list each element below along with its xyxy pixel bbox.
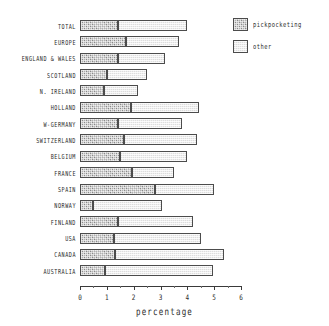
bar-segment-other bbox=[126, 36, 180, 47]
bar-row bbox=[0, 53, 329, 64]
bar-row bbox=[0, 249, 329, 260]
bar-segment-pickpocketing bbox=[80, 151, 120, 162]
bar-row bbox=[0, 134, 329, 145]
legend-swatch-pickpocketing bbox=[233, 18, 248, 31]
bar-segment-pickpocketing bbox=[80, 102, 131, 113]
bar-segment-pickpocketing bbox=[80, 265, 105, 276]
bar-row bbox=[0, 233, 329, 244]
bar-segment-pickpocketing bbox=[80, 233, 114, 244]
x-tick-minor bbox=[120, 286, 121, 288]
bar-segment-pickpocketing bbox=[80, 184, 155, 195]
bar-segment-pickpocketing bbox=[80, 20, 118, 31]
bar-segment-other bbox=[93, 200, 161, 211]
x-axis-title: percentage bbox=[0, 306, 329, 318]
x-tick-label: 3 bbox=[154, 292, 168, 301]
x-tick-label: 0 bbox=[73, 292, 87, 301]
bar-row bbox=[0, 102, 329, 113]
x-tick-mark bbox=[241, 286, 242, 290]
x-tick-mark bbox=[161, 286, 162, 290]
bar-segment-other bbox=[131, 102, 199, 113]
bar-segment-pickpocketing bbox=[80, 85, 104, 96]
x-tick-minor bbox=[93, 286, 94, 288]
x-tick-label: 5 bbox=[207, 292, 221, 301]
bar-segment-other bbox=[118, 20, 188, 31]
x-tick-minor bbox=[228, 286, 229, 288]
legend-label-pickpocketing: pickpocketing bbox=[253, 20, 302, 28]
bar-segment-other bbox=[107, 69, 147, 80]
stacked-bar-chart: TOTALEUROPEENGLAND & WALESSCOTLANDN. IRE… bbox=[0, 0, 329, 326]
bar-segment-pickpocketing bbox=[80, 249, 115, 260]
x-tick-mark bbox=[187, 286, 188, 290]
bar-segment-other bbox=[105, 265, 212, 276]
x-tick-minor bbox=[201, 286, 202, 288]
bar-segment-other bbox=[124, 134, 196, 145]
bar-row bbox=[0, 184, 329, 195]
bar-segment-other bbox=[155, 184, 214, 195]
bar-segment-pickpocketing bbox=[80, 216, 118, 227]
bar-segment-other bbox=[118, 216, 193, 227]
x-tick-minor bbox=[174, 286, 175, 288]
bar-segment-pickpocketing bbox=[80, 36, 126, 47]
bar-row bbox=[0, 216, 329, 227]
x-tick-minor bbox=[147, 286, 148, 288]
bar-segment-other bbox=[118, 118, 182, 129]
x-tick-mark bbox=[214, 286, 215, 290]
bar-row bbox=[0, 118, 329, 129]
bar-segment-pickpocketing bbox=[80, 69, 107, 80]
bar-row bbox=[0, 265, 329, 276]
bar-row bbox=[0, 85, 329, 96]
bar-row bbox=[0, 69, 329, 80]
bar-row bbox=[0, 200, 329, 211]
bar-row bbox=[0, 36, 329, 47]
bar-segment-pickpocketing bbox=[80, 118, 118, 129]
bar-segment-other bbox=[120, 151, 187, 162]
x-tick-mark bbox=[80, 286, 81, 290]
x-tick-label: 1 bbox=[100, 292, 114, 301]
legend-label-other: other bbox=[253, 42, 272, 50]
bar-segment-other bbox=[115, 249, 224, 260]
bar-segment-pickpocketing bbox=[80, 167, 132, 178]
x-tick-mark bbox=[134, 286, 135, 290]
bar-row bbox=[0, 167, 329, 178]
x-tick-label: 6 bbox=[234, 292, 248, 301]
bar-segment-other bbox=[118, 53, 165, 64]
x-tick-label: 2 bbox=[127, 292, 141, 301]
bar-segment-other bbox=[114, 233, 201, 244]
bar-segment-pickpocketing bbox=[80, 200, 93, 211]
x-tick-mark bbox=[107, 286, 108, 290]
bar-segment-pickpocketing bbox=[80, 53, 118, 64]
bar-segment-other bbox=[132, 167, 174, 178]
bar-segment-pickpocketing bbox=[80, 134, 124, 145]
bar-row bbox=[0, 151, 329, 162]
x-tick-label: 4 bbox=[180, 292, 194, 301]
bar-segment-other bbox=[104, 85, 138, 96]
legend-swatch-other bbox=[233, 40, 248, 53]
